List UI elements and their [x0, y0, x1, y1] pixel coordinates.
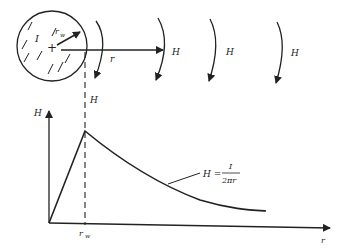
field-label-1: H — [89, 95, 98, 105]
formula-leader-line — [168, 173, 200, 184]
wire-cross-section: + — [17, 11, 87, 81]
rw-tick-subscript: w — [85, 232, 91, 239]
field-label-4: H — [290, 48, 299, 58]
x-axis-label: r — [321, 236, 326, 245]
field-arrow-4-icon — [276, 22, 282, 83]
formula-denominator: 2πr — [221, 176, 237, 185]
y-axis-label: H — [33, 108, 42, 118]
field-label-3: H — [225, 47, 234, 57]
field-arrow-3-icon — [209, 19, 216, 81]
radius-subscript: w — [60, 31, 66, 38]
magnetic-field-diagram: + I r w r H H H H H r r w H = I 2πr — [0, 0, 344, 251]
rw-tick-label: r — [79, 229, 84, 238]
hatch-marks — [22, 22, 70, 74]
center-mark: + — [47, 41, 57, 55]
formula-numerator: I — [228, 162, 233, 171]
current-label: I — [34, 33, 40, 44]
radial-label: r — [110, 54, 115, 64]
formula-lhs: H = — [202, 169, 221, 179]
field-label-2: H — [171, 47, 180, 57]
x-axis — [49, 223, 330, 228]
field-arrow-2-icon — [156, 18, 165, 80]
